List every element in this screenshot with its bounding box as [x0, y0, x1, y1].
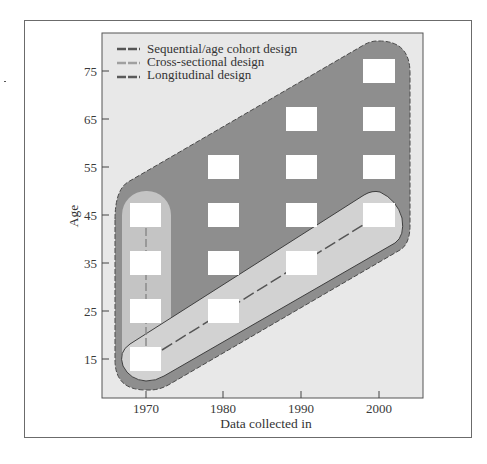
y-tick-75: 75 — [84, 64, 97, 79]
y-tick-65: 65 — [84, 112, 97, 127]
x-tick-1990: 1990 — [288, 401, 314, 416]
cell-1980-45 — [208, 203, 239, 227]
cell-1990-35 — [286, 251, 317, 275]
y-tick-35: 35 — [84, 256, 97, 271]
cell-1970-25 — [130, 299, 161, 323]
research-design-diagram: 75 65 55 45 35 25 15 Age 1970 1980 1990 … — [0, 0, 487, 464]
cell-2000-75 — [363, 59, 395, 83]
cell-1980-25 — [208, 299, 239, 323]
x-tick-1970: 1970 — [133, 401, 159, 416]
cell-1970-35 — [130, 251, 161, 275]
cell-1980-55 — [208, 155, 239, 179]
cell-1970-45 — [130, 203, 161, 227]
cell-1990-45 — [286, 203, 317, 227]
y-tick-45: 45 — [84, 208, 97, 223]
x-tick-2000: 2000 — [366, 401, 392, 416]
legend-label-longitudinal: Longitudinal design — [147, 67, 252, 82]
y-tick-55: 55 — [84, 160, 97, 175]
cell-2000-65 — [363, 107, 395, 131]
y-tick-15: 15 — [84, 352, 97, 367]
x-tick-1980: 1980 — [210, 401, 236, 416]
cell-2000-55 — [363, 155, 395, 179]
y-axis-title: Age — [66, 205, 81, 228]
cell-2000-45 — [363, 203, 395, 227]
y-tick-25: 25 — [84, 304, 97, 319]
cell-1980-35 — [208, 251, 239, 275]
x-axis-title: Data collected in — [220, 416, 312, 431]
cell-1970-15 — [130, 347, 161, 371]
cell-1990-55 — [286, 155, 317, 179]
cell-1990-65 — [286, 107, 317, 131]
